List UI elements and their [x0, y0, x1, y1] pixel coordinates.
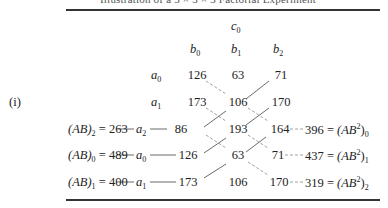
row-label-a0: a0	[151, 69, 161, 84]
cell: 106	[229, 176, 248, 189]
row-label-a2: a2	[136, 123, 146, 138]
ab-total-label: (AB)1 = 400	[68, 176, 128, 191]
cell: 106	[229, 96, 248, 109]
cell: 71	[275, 69, 288, 82]
cell: 170	[272, 96, 291, 109]
cell: 63	[232, 149, 245, 162]
cell: 170	[270, 176, 289, 189]
ab-total-label: (AB)2 = 263	[68, 123, 128, 138]
row-label-a1-repeat: a1	[136, 176, 146, 191]
cell: 173	[188, 96, 207, 109]
ab2-total-label: 437 = (AB2)1	[305, 149, 369, 165]
row-label-a1: a1	[151, 96, 161, 111]
cell: 126	[179, 149, 198, 162]
ab2-total-label: 396 = (AB2)0	[305, 123, 369, 139]
ab-total-label: (AB)0 = 489	[68, 149, 128, 164]
cell: 126	[188, 69, 207, 82]
cell: 71	[272, 149, 285, 162]
cell: 164	[271, 123, 290, 136]
row-label-a0-repeat: a0	[136, 149, 146, 164]
ab2-total-label: 319 = (AB2)2	[305, 176, 369, 192]
cell: 173	[179, 176, 198, 189]
cell: 193	[229, 123, 248, 136]
cell: 63	[232, 69, 245, 82]
cell: 86	[175, 123, 188, 136]
